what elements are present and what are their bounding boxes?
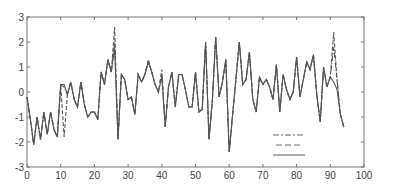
y-tick-label: 3 bbox=[18, 12, 24, 23]
x-tick-label: 80 bbox=[291, 170, 303, 181]
x-tick-label: 10 bbox=[55, 170, 67, 181]
x-tick-label: 40 bbox=[156, 170, 168, 181]
line-chart: 0102030405060708090100 -3-2-10123 bbox=[0, 0, 398, 194]
x-tick-label: 70 bbox=[257, 170, 269, 181]
y-tick-label: -2 bbox=[15, 137, 24, 148]
x-tick-label: 60 bbox=[224, 170, 236, 181]
y-tick-label: 2 bbox=[18, 37, 24, 48]
x-tick-label: 0 bbox=[24, 170, 30, 181]
y-tick-label: 1 bbox=[18, 62, 24, 73]
x-tick-label: 30 bbox=[123, 170, 135, 181]
x-tick-label: 20 bbox=[89, 170, 101, 181]
y-tick-label: -3 bbox=[15, 162, 24, 173]
y-tick-label: -1 bbox=[15, 112, 24, 123]
plot-area bbox=[27, 17, 364, 167]
y-tick-label: 0 bbox=[18, 87, 24, 98]
x-tick-label: 50 bbox=[190, 170, 202, 181]
x-tick-label: 100 bbox=[356, 170, 373, 181]
x-tick-label: 90 bbox=[325, 170, 337, 181]
